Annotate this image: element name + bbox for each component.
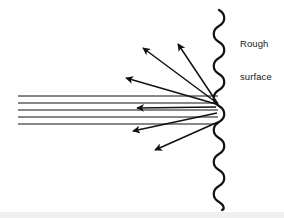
scattered-beam — [126, 44, 218, 150]
scattered-ray-4 — [137, 107, 216, 108]
rough-surface-label-line2: surface — [240, 71, 272, 82]
ray-diagram-figure: Rough surface — [0, 0, 284, 218]
bottom-band — [0, 212, 284, 218]
rough-surface-label-line1: Rough — [240, 38, 272, 49]
scattered-ray-6 — [155, 122, 218, 150]
scattered-ray-1 — [143, 48, 217, 103]
rough-surface-label: Rough surface — [240, 16, 272, 104]
